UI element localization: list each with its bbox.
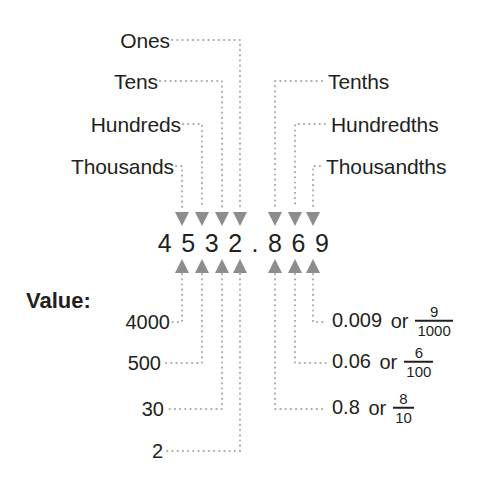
value-label-0-06: 0.06 or 6 100 (332, 347, 433, 380)
up-arrow-tenths (268, 259, 282, 273)
number-display: 4 5 3 2 . 8 6 9 (0, 231, 488, 256)
connector-value-0-8 (275, 274, 327, 409)
down-arrow-ones (233, 212, 247, 226)
fraction-numerator: 6 (404, 346, 433, 360)
fraction-8-10: 8 10 (393, 392, 414, 425)
down-arrow-hundredths (288, 212, 302, 226)
fraction-denominator: 100 (404, 363, 433, 378)
value-label-4000: 4000 (126, 312, 171, 332)
down-arrow-tenths (268, 212, 282, 226)
fraction-6-100: 6 100 (404, 346, 433, 379)
up-arrow-thousandths (306, 259, 320, 273)
connector-value-4000 (172, 274, 182, 322)
place-label-thousands: Thousands (71, 156, 174, 177)
connector-value-0-009 (313, 274, 327, 322)
down-arrow-hundreds (195, 212, 209, 226)
down-arrow-thousandths (306, 212, 320, 226)
connector-thousandths (313, 166, 320, 207)
or-word-3: or (368, 396, 386, 418)
or-word-2: or (380, 350, 398, 372)
connector-thousands (176, 166, 182, 207)
connector-tenths (275, 81, 322, 207)
down-arrow-tens (215, 212, 229, 226)
place-label-ones: Ones (120, 30, 170, 51)
place-label-hundredths: Hundredths (331, 114, 439, 135)
value-label-2: 2 (152, 441, 163, 461)
place-label-hundreds: Hundreds (91, 114, 181, 135)
value-label-0-009: 0.009 or 9 1000 (332, 306, 453, 339)
up-arrow-tens (215, 259, 229, 273)
up-arrow-hundreds (195, 259, 209, 273)
connector-value-30 (166, 274, 222, 409)
or-word-1: or (391, 309, 409, 331)
up-arrow-thousands (175, 259, 189, 273)
down-arrow-thousands (175, 212, 189, 226)
fraction-9-1000: 9 1000 (415, 305, 452, 338)
up-arrow-ones (233, 259, 247, 273)
fraction-denominator: 1000 (415, 322, 452, 337)
decimal-0-06: 0.06 (332, 350, 371, 372)
decimal-0-8: 0.8 (332, 396, 360, 418)
connector-value-0-06 (295, 274, 327, 363)
place-label-tenths: Tenths (328, 71, 389, 92)
value-label-500: 500 (128, 353, 161, 373)
place-label-thousandths: Thousandths (326, 156, 446, 177)
up-arrow-hundredths (288, 259, 302, 273)
connector-tens (160, 81, 222, 207)
fraction-numerator: 8 (393, 392, 414, 406)
value-caption: Value: (26, 288, 91, 314)
value-label-0-8: 0.8 or 8 10 (332, 393, 414, 426)
fraction-numerator: 9 (415, 305, 452, 319)
connector-hundreds (183, 124, 202, 207)
decimal-0-009: 0.009 (332, 309, 382, 331)
place-value-diagram: .dot{stroke:#a8a8a8;stroke-width:2;strok… (0, 0, 488, 479)
value-label-30: 30 (142, 399, 164, 419)
fraction-denominator: 10 (393, 409, 414, 424)
place-label-tens: Tens (114, 71, 158, 92)
